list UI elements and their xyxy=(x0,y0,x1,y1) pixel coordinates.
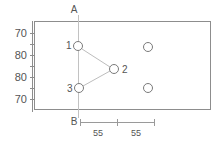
reference-label-b: B xyxy=(71,116,78,127)
node-marker-2[interactable] xyxy=(110,65,119,74)
technical-diagram: 70 80 80 70 A B 1 2 3 55 55 xyxy=(0,0,221,143)
reference-label-a: A xyxy=(71,4,78,15)
dimension-label-left: 55 xyxy=(93,128,103,138)
node-marker-1[interactable] xyxy=(74,42,83,51)
y-axis-tick-label: 80 xyxy=(15,49,27,61)
node-marker-3[interactable] xyxy=(75,84,84,93)
node-marker-5[interactable] xyxy=(144,84,153,93)
node-marker-4[interactable] xyxy=(144,43,153,52)
dimension-label-right: 55 xyxy=(131,128,141,138)
node-label-2: 2 xyxy=(122,64,128,75)
y-axis-tick-label: 80 xyxy=(15,71,27,83)
y-axis-tick-label: 70 xyxy=(15,93,27,105)
node-label-3: 3 xyxy=(67,83,73,94)
y-axis-tick-label: 70 xyxy=(15,27,27,39)
diagram-canvas: 70 80 80 70 A B 1 2 3 55 55 xyxy=(0,0,221,143)
node-label-1: 1 xyxy=(66,40,72,51)
